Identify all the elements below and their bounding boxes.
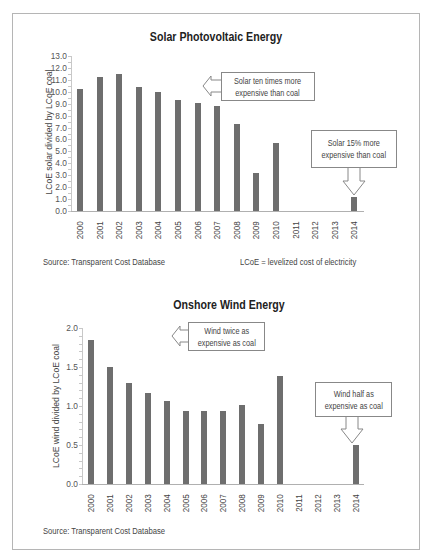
- callout-text-line1: Wind half as: [325, 388, 383, 400]
- down-arrow-icon: [0, 0, 433, 560]
- callout-text-line2: expensive as coal: [325, 400, 383, 412]
- wind-source-note: Source: Transparent Cost Database: [43, 526, 165, 536]
